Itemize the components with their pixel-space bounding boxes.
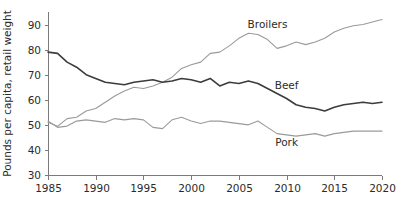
y-tick-label: 50 [28,119,41,131]
series-line-pork [48,117,382,136]
y-tick-label: 70 [28,69,41,81]
x-tick-label: 2005 [226,182,253,194]
x-tick-label: 2020 [369,182,396,194]
y-tick-label: 90 [28,19,41,31]
y-tick-label: 40 [28,144,41,156]
y-axis-title: Pounds per capita, retail weight [1,10,13,177]
y-tick-label: 30 [28,169,41,181]
y-axis-title-text: Pounds per capita, retail weight [1,10,13,177]
series-line-broilers [48,20,382,127]
chart-canvas: 30405060708090 1985199019952000200520102… [0,0,398,208]
series-label-pork: Pork [275,136,299,148]
x-tick-label: 2010 [274,182,301,194]
meat-consumption-chart: 30405060708090 1985199019952000200520102… [0,0,398,208]
x-axis: 19851990199520002005201020152020 [35,176,396,195]
series-label-broilers: Broilers [248,18,288,30]
x-tick-label: 2015 [321,182,348,194]
x-tick-label: 1985 [35,182,62,194]
series-line-beef [48,52,382,111]
x-tick-label: 2000 [178,182,205,194]
y-tick-label: 60 [28,94,41,106]
y-axis: 30405060708090 [28,12,49,181]
y-tick-label: 80 [28,44,41,56]
x-tick-label: 1990 [83,182,110,194]
series-lines [48,20,382,137]
series-label-beef: Beef [275,79,299,91]
x-tick-label: 1995 [130,182,157,194]
